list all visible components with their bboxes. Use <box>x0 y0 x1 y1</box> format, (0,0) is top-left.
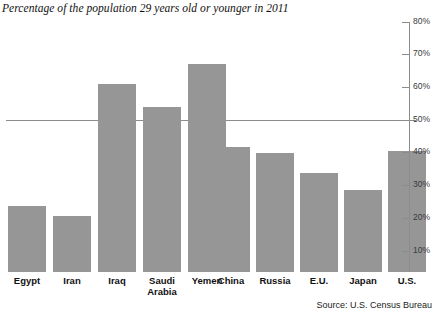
category-label-japan-line1: Japan <box>349 275 376 286</box>
bar-chart: Percentage of the population 29 years ol… <box>0 0 438 320</box>
bar-slot-saudi-arabia <box>143 20 181 272</box>
bar-russia[interactable] <box>256 153 294 272</box>
bar-slot-egypt <box>8 20 46 272</box>
bar-saudi-arabia[interactable] <box>143 107 181 272</box>
category-label-iraq-line1: Iraq <box>108 275 125 286</box>
category-label-saudi-arabia: Saudi Arabia <box>139 276 185 297</box>
y-tick-label-80: 80% <box>413 17 430 26</box>
bar-group-middle-east <box>8 20 196 272</box>
bar-slot-japan <box>344 20 382 272</box>
bar-slot-china <box>212 20 250 272</box>
y-tick-label-30: 30% <box>413 180 430 189</box>
y-tick-mark-30 <box>402 185 409 186</box>
y-tick-mark-70 <box>402 54 409 55</box>
category-label-japan: Japan <box>340 276 386 287</box>
y-tick-label-20: 20% <box>413 213 430 222</box>
bar-china[interactable] <box>212 147 250 272</box>
bar-group-other <box>212 20 395 272</box>
category-label-iran: Iran <box>49 276 95 287</box>
category-label-iran-line1: Iran <box>63 275 80 286</box>
baseline <box>0 272 416 273</box>
y-tick-mark-20 <box>402 218 409 219</box>
bar-slot-eu <box>300 20 338 272</box>
bar-slot-iran <box>53 20 91 272</box>
category-label-us: U.S. <box>384 276 430 287</box>
y-tick-label-70: 70% <box>413 49 430 58</box>
y-tick-mark-50 <box>402 120 409 121</box>
category-label-egypt-line1: Egypt <box>14 275 40 286</box>
category-label-eu: E.U. <box>296 276 342 287</box>
category-label-us-line1: U.S. <box>398 275 416 286</box>
y-tick-label-60: 60% <box>413 82 430 91</box>
category-label-egypt: Egypt <box>4 276 50 287</box>
bar-eu[interactable] <box>300 173 338 272</box>
bar-iraq[interactable] <box>98 84 136 272</box>
category-label-china: China <box>208 276 254 287</box>
y-tick-label-10: 10% <box>413 246 430 255</box>
y-tick-mark-60 <box>402 87 409 88</box>
y-tick-label-40: 40% <box>413 147 430 156</box>
category-label-saudi-line1: Saudi <box>149 275 175 286</box>
category-label-china-line1: China <box>218 275 244 286</box>
source-note: Source: U.S. Census Bureau <box>316 300 432 310</box>
y-tick-mark-10 <box>402 251 409 252</box>
y-tick-mark-40 <box>402 152 409 153</box>
chart-title: Percentage of the population 29 years ol… <box>2 2 422 14</box>
y-tick-label-50: 50% <box>413 115 430 124</box>
category-label-iraq: Iraq <box>94 276 140 287</box>
bar-slot-russia <box>256 20 294 272</box>
bar-japan[interactable] <box>344 190 382 272</box>
bar-iran[interactable] <box>53 216 91 272</box>
bar-egypt[interactable] <box>8 206 46 272</box>
y-tick-mark-80 <box>402 22 409 23</box>
y-axis-line <box>409 22 410 272</box>
plot-area <box>0 20 438 272</box>
category-label-saudi-line2: Arabia <box>139 287 185 298</box>
category-label-eu-line1: E.U. <box>310 275 328 286</box>
bar-slot-iraq <box>98 20 136 272</box>
category-label-russia-line1: Russia <box>259 275 290 286</box>
category-label-russia: Russia <box>252 276 298 287</box>
